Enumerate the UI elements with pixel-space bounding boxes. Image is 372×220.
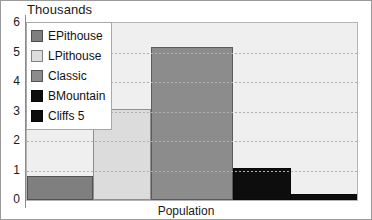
legend-item-label: BMountain <box>48 90 105 102</box>
bar-cliffs-5 <box>291 194 357 200</box>
chart-title: Thousands <box>27 2 92 17</box>
legend-swatch-icon <box>31 90 43 102</box>
legend-swatch-icon <box>31 50 43 62</box>
y-axis-tick-3: 3 <box>13 104 20 118</box>
legend-item-cliffs-5[interactable]: Cliffs 5 <box>31 106 105 126</box>
y-axis-tick-4: 4 <box>13 74 20 88</box>
legend-item-lpithouse[interactable]: LPithouse <box>31 46 105 66</box>
bar-classic <box>151 47 233 200</box>
legend-item-epithouse[interactable]: EPithouse <box>31 26 105 46</box>
bar-epithouse <box>27 176 93 200</box>
legend-item-label: LPithouse <box>48 50 101 62</box>
y-axis-tick-5: 5 <box>13 45 20 59</box>
y-axis-tick-1: 1 <box>13 163 20 177</box>
bar-bmountain <box>233 168 291 200</box>
y-axis-tick-6: 6 <box>13 15 20 29</box>
legend-item-label: EPithouse <box>48 30 103 42</box>
legend-item-classic[interactable]: Classic <box>31 66 105 86</box>
legend-item-label: Cliffs 5 <box>48 110 84 122</box>
legend-swatch-icon <box>31 110 43 122</box>
y-axis-tick-2: 2 <box>13 133 20 147</box>
legend-swatch-icon <box>31 30 43 42</box>
x-axis-label: Population <box>1 204 371 218</box>
legend-swatch-icon <box>31 70 43 82</box>
gridline-2 <box>27 141 357 142</box>
chart-legend: EPithouseLPithouseClassicBMountainCliffs… <box>26 22 112 130</box>
legend-item-label: Classic <box>48 70 87 82</box>
gridline-1 <box>27 171 357 172</box>
legend-item-bmountain[interactable]: BMountain <box>31 86 105 106</box>
chart-container: Thousands 0123456 EPithouseLPithouseClas… <box>0 0 372 220</box>
y-axis: 0123456 <box>1 15 26 208</box>
